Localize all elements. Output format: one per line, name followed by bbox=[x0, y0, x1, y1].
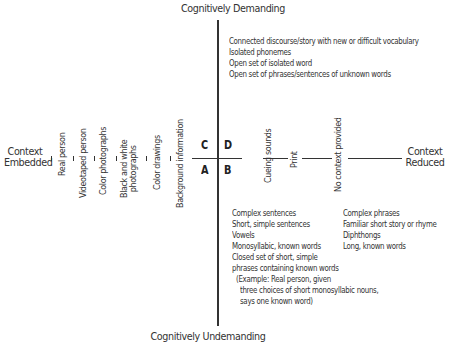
axis-tick bbox=[170, 156, 171, 161]
quadrant-b-item: Vowels bbox=[232, 230, 254, 241]
quadrant-label-c: C bbox=[201, 137, 208, 152]
axis-item-color-photographs: Color photographs bbox=[99, 127, 108, 195]
vertical-axis bbox=[217, 20, 219, 326]
axis-item-black-white-photographs: Black and white photographs bbox=[120, 140, 138, 198]
quadrant-b-item: phrases containing known words bbox=[232, 263, 339, 274]
horizontal-axis-seg2 bbox=[302, 158, 332, 159]
quadrant-b-item: three choices of short monosyllabic noun… bbox=[240, 285, 378, 296]
quadrant-label-a: A bbox=[201, 162, 209, 177]
axis-item-real-person: Real person bbox=[58, 133, 67, 176]
quadrant-b-item: Short, simple sentences bbox=[232, 219, 310, 230]
axis-item-line1: Black and white bbox=[120, 140, 129, 198]
quadrant-d-item: Connected discourse/story with new or di… bbox=[229, 36, 419, 47]
quadrant-d-item: Open set of phrases/sentences of unknown… bbox=[229, 69, 391, 80]
axis-tick bbox=[116, 156, 117, 161]
top-axis-label: Cognitively Demanding bbox=[173, 3, 293, 14]
quadrant-b-item: says one known word) bbox=[240, 296, 313, 307]
bottom-axis-label: Cognitively Undemanding bbox=[143, 331, 273, 342]
left-axis-label: Context Embedded bbox=[4, 146, 46, 168]
left-axis-label-line2: Embedded bbox=[4, 157, 46, 168]
quadrant-b-item: Closed set of short, simple bbox=[232, 252, 318, 263]
axis-tick bbox=[51, 156, 52, 161]
quadrant-b-item: Familiar short story or rhyme bbox=[343, 219, 437, 230]
axis-item-line2: photographs bbox=[129, 140, 138, 198]
quadrant-b-item: Long, known words bbox=[343, 241, 406, 252]
quadrant-b-item: (Example: Real person, given bbox=[236, 274, 331, 285]
quadrant-b-item: Monosyllabic, known words bbox=[232, 241, 321, 252]
quadrant-label-b: B bbox=[224, 162, 231, 177]
horizontal-axis-center bbox=[192, 158, 242, 159]
quadrant-label-d: D bbox=[224, 137, 232, 152]
quadrant-b-item: Complex phrases bbox=[343, 208, 399, 219]
quadrant-d-item: Open set of isolated word bbox=[229, 58, 312, 69]
axis-tick bbox=[94, 156, 95, 161]
axis-item-cueing-sounds: Cueing sounds bbox=[264, 129, 273, 183]
axis-item-background-information: Background information bbox=[176, 119, 185, 208]
horizontal-axis-seg3 bbox=[348, 158, 402, 159]
axis-item-videotaped-person: Videotaped person bbox=[79, 128, 88, 198]
axis-tick bbox=[146, 156, 147, 161]
axis-item-print: Print bbox=[290, 151, 299, 168]
axis-tick bbox=[73, 156, 74, 161]
left-axis-label-line1: Context bbox=[4, 146, 46, 157]
axis-item-no-context-provided: No context provided bbox=[334, 117, 343, 192]
right-axis-label-line2: Reduced bbox=[404, 157, 446, 168]
quadrant-b-item: Complex sentences bbox=[232, 208, 296, 219]
axis-item-color-drawings: Color drawings bbox=[153, 135, 162, 190]
right-axis-label-line1: Context bbox=[404, 146, 446, 157]
quadrant-d-item: Isolated phonemes bbox=[229, 47, 291, 58]
quadrant-b-item: Diphthongs bbox=[343, 230, 380, 241]
right-axis-label: Context Reduced bbox=[404, 146, 446, 168]
